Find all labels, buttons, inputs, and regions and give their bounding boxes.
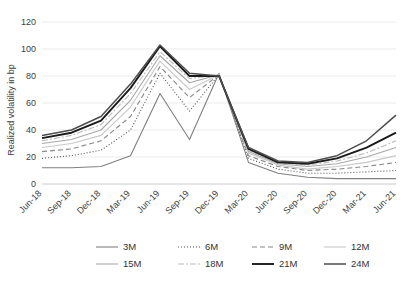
y-tick-label: 40 bbox=[26, 125, 36, 135]
y-tick-label: 80 bbox=[26, 71, 36, 81]
y-axis-tick-labels: 020406080100120 bbox=[21, 17, 36, 189]
series-line-24m bbox=[42, 45, 396, 162]
y-tick-label: 60 bbox=[26, 98, 36, 108]
x-tick-label: Jun-21 bbox=[371, 188, 398, 215]
x-tick-label: Mar-19 bbox=[105, 188, 132, 215]
x-tick-label: Jun-19 bbox=[135, 188, 162, 215]
series-line-15m bbox=[42, 56, 396, 167]
gridlines-group bbox=[42, 22, 396, 184]
series-line-21m bbox=[42, 46, 396, 163]
x-tick-label: Sep-18 bbox=[45, 188, 73, 216]
x-tick-label: Dec-18 bbox=[75, 188, 103, 216]
y-tick-label: 120 bbox=[21, 17, 36, 27]
legend-label-24m: 24M bbox=[351, 258, 370, 269]
legend-label-21m: 21M bbox=[279, 258, 298, 269]
x-tick-label: Mar-21 bbox=[341, 188, 368, 215]
legend-label-3m: 3M bbox=[123, 241, 136, 252]
legend-label-6m: 6M bbox=[205, 241, 218, 252]
chart-legend: 3M6M9M12M15M18M21M24M bbox=[96, 241, 370, 269]
x-tick-label: Dec-19 bbox=[193, 188, 221, 216]
legend-label-12m: 12M bbox=[351, 241, 370, 252]
x-tick-label: Sep-19 bbox=[163, 188, 191, 216]
y-tick-label: 100 bbox=[21, 44, 36, 54]
y-tick-label: 0 bbox=[31, 179, 36, 189]
realized-volatility-line-chart: 020406080100120 Jun-18Sep-18Dec-18Mar-19… bbox=[0, 0, 409, 285]
x-tick-label: Mar-20 bbox=[223, 188, 250, 215]
data-series-group bbox=[42, 45, 396, 179]
y-axis-title: Realized volatility in bp bbox=[6, 64, 16, 156]
legend-label-18m: 18M bbox=[205, 258, 224, 269]
x-tick-label: Sep-20 bbox=[281, 188, 309, 216]
chart-canvas: 020406080100120 Jun-18Sep-18Dec-18Mar-19… bbox=[0, 0, 409, 285]
x-axis-tick-labels: Jun-18Sep-18Dec-18Mar-19Jun-19Sep-19Dec-… bbox=[17, 188, 398, 216]
y-tick-label: 20 bbox=[26, 152, 36, 162]
x-tick-label: Dec-20 bbox=[311, 188, 339, 216]
legend-label-15m: 15M bbox=[123, 258, 142, 269]
legend-label-9m: 9M bbox=[279, 241, 292, 252]
series-line-18m bbox=[42, 52, 396, 165]
x-tick-label: Jun-18 bbox=[17, 188, 44, 215]
x-tick-label: Jun-20 bbox=[253, 188, 280, 215]
